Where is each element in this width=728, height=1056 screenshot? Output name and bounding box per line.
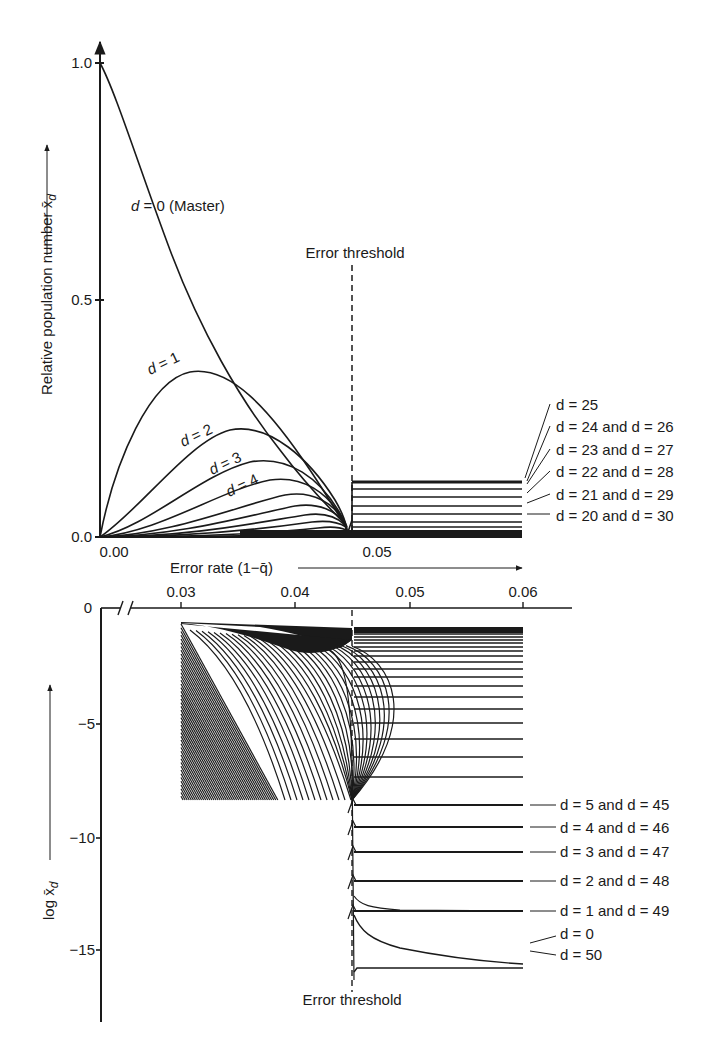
upper-y-tick-0: 0.0 [71,528,92,545]
lower-panel: 0.03 0.04 0.05 0.06 0 −5 −10 −15 log x̄d… [40,583,669,1022]
upper-y-label: Relative population number x̄d [38,194,59,395]
lower-x-tick-004: 0.04 [280,583,309,600]
right-label-d23-27: d = 23 and d = 27 [556,441,674,458]
curve-d0 [100,63,343,522]
lower-x-tick-006: 0.06 [508,583,537,600]
lower-leader-lines [530,805,556,955]
lower-right-labels: d = 5 and d = 45 d = 4 and d = 46 d = 3 … [560,796,669,963]
right-label-d22-28: d = 22 and d = 28 [556,463,674,480]
label-d1: d = 1 [144,348,182,378]
upper-y-tick-1: 1.0 [71,54,92,71]
label-master: d = 0 (Master) [131,197,225,214]
lower-y-tick-m15: −15 [70,941,95,958]
chart-canvas: 1.0 0.5 0.0 0.00 0.05 Relative populatio… [0,0,728,1056]
label-d3: d = 3 [206,448,244,478]
right-label-d25: d = 25 [556,396,598,413]
lower-y-tick-m5: −5 [78,715,95,732]
lower-x-tick-003: 0.03 [166,583,195,600]
upper-panel: 1.0 0.5 0.0 0.00 0.05 Relative populatio… [38,42,674,560]
right-label-d5-45: d = 5 and d = 45 [560,796,669,813]
lower-plateau-dense [354,627,523,633]
upper-plateau-lines [352,482,522,537]
lower-y-label: log x̄d [40,881,61,920]
label-d4: d = 4 [223,470,261,500]
upper-x-tick-005: 0.05 [362,543,391,560]
lower-curve-d0 [354,915,523,964]
right-label-d0: d = 0 [560,925,594,942]
upper-dense-band [240,530,352,537]
right-label-d2-48: d = 2 and d = 48 [560,872,669,889]
upper-right-labels: d = 25 d = 24 and d = 26 d = 23 and d = … [556,396,674,524]
right-label-d3-47: d = 3 and d = 47 [560,843,669,860]
lower-y-tick-0: 0 [84,599,92,616]
x-axis-label: Error rate (1−q̄) [170,559,273,576]
lower-y-tick-m10: −10 [70,829,95,846]
right-label-d20-30: d = 20 and d = 30 [556,507,674,524]
lower-threshold-label: Error threshold [302,991,401,1008]
upper-x-tick-000: 0.00 [99,543,128,560]
upper-threshold-label: Error threshold [305,244,404,261]
lower-plateau-lines [348,634,523,919]
right-label-d4-46: d = 4 and d = 46 [560,819,669,836]
lower-x-tick-005: 0.05 [395,583,424,600]
lower-curve-d50 [354,968,523,972]
right-label-d50: d = 50 [560,946,602,963]
label-d2: d = 2 [177,420,215,450]
right-label-d24-26: d = 24 and d = 26 [556,418,674,435]
right-label-d1-49: d = 1 and d = 49 [560,902,669,919]
right-label-d21-29: d = 21 and d = 29 [556,486,674,503]
upper-leader-lines [525,404,550,514]
upper-y-tick-05: 0.5 [71,291,92,308]
curve-d2 [100,429,346,537]
